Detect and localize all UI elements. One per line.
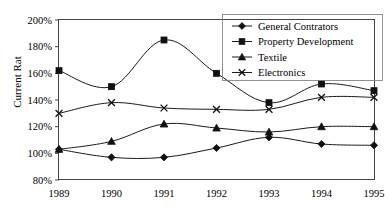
square-marker-icon <box>214 70 220 76</box>
legend-label: Textile <box>258 52 287 63</box>
y-tick-label: 100% <box>28 148 53 159</box>
data-series <box>56 37 377 106</box>
diamond-marker-icon <box>318 140 325 147</box>
x-tick-label: 1991 <box>154 188 175 199</box>
data-series <box>55 134 377 161</box>
chart-legend: General ContratorsProperty DevelopmentTe… <box>223 15 383 81</box>
diamond-marker-icon <box>370 142 377 149</box>
x-axis-ticks: 1989199019911992199319941995 <box>49 188 385 199</box>
data-series <box>56 94 378 117</box>
legend-label: General Contrators <box>258 21 338 32</box>
legend-label: Property Development <box>258 36 353 47</box>
square-marker-icon <box>239 39 245 45</box>
y-axis-ticks: 200%180%160%140%120%100%80% <box>28 15 60 186</box>
square-marker-icon <box>371 88 377 94</box>
chart-canvas: 200%180%160%140%120%100%80% 198919901991… <box>0 0 389 215</box>
diamond-marker-icon <box>239 23 246 30</box>
square-marker-icon <box>161 37 167 43</box>
line-chart: Current Rat 200%180%160%140%120%100%80% … <box>0 0 389 215</box>
legend-label: Electronics <box>258 67 305 78</box>
x-tick-label: 1995 <box>364 188 385 199</box>
y-tick-label: 80% <box>33 175 53 186</box>
y-tick-label: 200% <box>28 15 53 26</box>
y-tick-label: 160% <box>28 68 53 79</box>
x-tick-label: 1992 <box>206 188 227 199</box>
diamond-marker-icon <box>213 144 220 151</box>
square-marker-icon <box>319 81 325 87</box>
x-tick-label: 1994 <box>311 188 333 199</box>
diamond-marker-icon <box>160 154 167 161</box>
x-tick-label: 1990 <box>101 188 122 199</box>
data-series-group <box>55 37 378 161</box>
y-tick-label: 180% <box>28 41 53 52</box>
y-tick-label: 140% <box>28 95 53 106</box>
series-line <box>59 96 374 113</box>
x-tick-label: 1993 <box>259 188 280 199</box>
square-marker-icon <box>266 100 272 106</box>
diamond-marker-icon <box>108 154 115 161</box>
square-marker-icon <box>109 84 115 90</box>
x-tick-label: 1989 <box>49 188 70 199</box>
square-marker-icon <box>56 68 62 74</box>
y-tick-label: 120% <box>28 121 53 132</box>
